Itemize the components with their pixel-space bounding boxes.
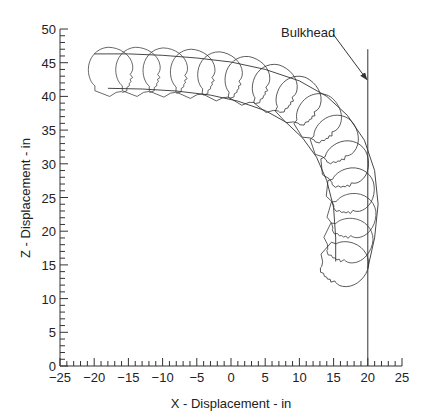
bulkhead-label: Bulkhead (281, 25, 335, 40)
x-ticks: −25−20−15−10−50510152025 (49, 358, 409, 385)
head-profile-frame (169, 48, 216, 99)
x-tick-label: −20 (83, 370, 105, 385)
head-trajectory-chart: Bulkhead 05101520253035404550 −25−20−15−… (0, 0, 427, 420)
y-tick-label: 25 (42, 191, 56, 206)
x-tick-label: 10 (292, 370, 306, 385)
chin-trajectory-line (108, 88, 336, 261)
y-tick-label: 30 (42, 157, 56, 172)
plot-traces (94, 54, 378, 268)
x-axis-title: X - Displacement - in (171, 396, 292, 411)
x-tick-label: −15 (117, 370, 139, 385)
head-profile-frame (195, 50, 244, 104)
head-profile-frame (313, 133, 377, 195)
x-tick-label: 5 (262, 370, 269, 385)
y-tick-label: 40 (42, 89, 56, 104)
x-tick-label: −10 (152, 370, 174, 385)
x-tick-label: 15 (326, 370, 340, 385)
y-tick-label: 10 (42, 292, 56, 307)
y-tick-label: 50 (42, 22, 56, 37)
x-tick-label: 25 (395, 370, 409, 385)
head-profile-frame (322, 216, 375, 265)
y-tick-label: 5 (49, 325, 56, 340)
y-tick-label: 45 (42, 56, 56, 71)
y-tick-label: 35 (42, 123, 56, 138)
head-profile-frame (313, 234, 374, 293)
y-axis-title: Z - Displacement - in (18, 138, 33, 258)
x-tick-label: −5 (189, 370, 204, 385)
x-tick-label: 20 (361, 370, 375, 385)
bulkhead-arrow (333, 34, 367, 80)
x-tick-label: 0 (227, 370, 234, 385)
y-tick-label: 20 (42, 224, 56, 239)
head-profile-frame (302, 106, 368, 172)
x-tick-label: −25 (49, 370, 71, 385)
y-tick-label: 15 (42, 258, 56, 273)
y-ticks: 05101520253035404550 (42, 22, 68, 374)
head-profile-frame (325, 192, 378, 241)
head-profile-frame (246, 59, 303, 119)
